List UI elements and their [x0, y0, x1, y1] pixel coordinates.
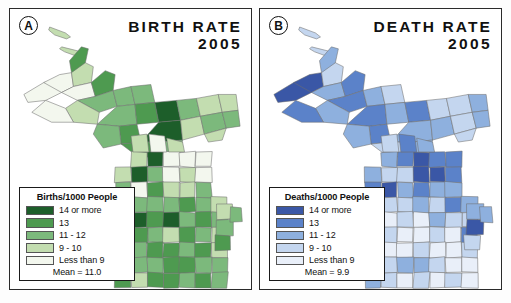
panel-title-b-line1: DEATH RATE: [373, 18, 492, 35]
legend-label: 13: [59, 218, 69, 228]
county-shape: [343, 124, 371, 148]
county-shape: [399, 134, 417, 152]
legend-swatch: [276, 256, 304, 266]
panel-title-a: BIRTH RATE 2005: [128, 18, 242, 52]
county-shape: [446, 151, 463, 167]
county-shape: [130, 151, 147, 168]
legend-swatch: [276, 218, 304, 228]
legend-label: Less than 9: [59, 255, 104, 265]
county-shape: [397, 227, 413, 242]
county-shape: [114, 167, 132, 183]
county-shape: [195, 257, 212, 273]
isle-royale-shape: [299, 27, 321, 39]
county-shape: [195, 211, 212, 227]
county-shape: [146, 211, 163, 227]
county-shape: [179, 242, 196, 257]
county-shape: [147, 167, 164, 182]
legend-death-title: Deaths/1000 People: [276, 192, 378, 202]
county-shape: [147, 257, 163, 273]
county-shape: [195, 152, 212, 167]
county-shape: [429, 257, 446, 273]
county-shape: [397, 167, 415, 182]
panel-birth-rate: A BIRTH RATE 2005 Births/1000 People 14 …: [9, 8, 252, 290]
county-shape: [155, 100, 181, 122]
legend-swatch: [26, 206, 54, 216]
county-shape: [131, 134, 149, 152]
county-shape: [215, 235, 231, 251]
county-shape: [146, 196, 163, 213]
legend-swatch: [276, 206, 304, 216]
county-shape: [445, 213, 462, 229]
county-shape: [429, 213, 446, 227]
county-shape: [381, 167, 397, 182]
county-shape: [131, 166, 148, 182]
county-shape: [413, 227, 430, 243]
legend-label: 11 - 12: [309, 230, 336, 240]
legend-row: 13: [276, 217, 378, 229]
county-shape: [149, 134, 167, 152]
county-shape: [179, 257, 196, 273]
county-shape: [464, 235, 481, 250]
county-shape: [445, 197, 463, 213]
panel-title-a-line1: BIRTH RATE: [128, 18, 242, 35]
panel-tag-a: A: [19, 16, 38, 35]
county-shape: [414, 152, 430, 167]
county-shape: [230, 207, 242, 222]
county-shape: [413, 182, 430, 198]
county-shape: [32, 100, 74, 122]
county-shape: [211, 272, 228, 289]
county-shape: [413, 272, 430, 289]
county-shape: [430, 182, 446, 198]
county-shape: [414, 258, 430, 273]
county-shape: [429, 152, 447, 168]
legend-death: Deaths/1000 People 14 or more1311 - 129 …: [269, 187, 385, 282]
legend-birth: Births/1000 People 14 or more1311 - 129 …: [19, 187, 135, 282]
isle-royale-group: [299, 27, 332, 56]
legend-row: 14 or more: [26, 205, 128, 217]
panel-title-b: DEATH RATE 2005: [373, 18, 492, 52]
legend-row: 9 - 10: [276, 242, 378, 254]
county-shape: [381, 151, 398, 167]
county-shape: [163, 273, 180, 288]
county-shape: [397, 152, 414, 167]
county-shape: [445, 227, 461, 243]
figure-root: A BIRTH RATE 2005 Births/1000 People 14 …: [0, 0, 511, 303]
legend-label: 13: [309, 218, 319, 228]
panel-title-b-year: 2005: [373, 35, 492, 52]
legend-row: 14 or more: [276, 205, 378, 217]
legend-label: 14 or more: [59, 205, 102, 215]
county-shape: [163, 257, 180, 273]
county-shape: [381, 134, 399, 152]
legend-birth-rows: 14 or more1311 - 129 - 10Less than 9: [26, 205, 128, 267]
county-shape: [180, 182, 195, 198]
county-shape: [179, 211, 195, 227]
legend-label: 9 - 10: [309, 243, 331, 253]
county-shape: [413, 197, 429, 213]
legend-swatch: [276, 231, 304, 241]
county-shape: [445, 273, 463, 287]
county-shape: [446, 242, 462, 258]
county-shape: [179, 227, 195, 243]
legend-row: 11 - 12: [26, 230, 128, 242]
legend-row: 11 - 12: [276, 230, 378, 242]
legend-label: 11 - 12: [59, 230, 86, 240]
legend-label: 9 - 10: [59, 243, 81, 253]
isle-royale-group: [49, 27, 82, 56]
legend-swatch: [26, 231, 54, 241]
county-shape: [431, 116, 455, 140]
county-shape: [179, 272, 195, 287]
legend-label: 14 or more: [309, 205, 352, 215]
county-shape: [196, 182, 212, 198]
county-shape: [164, 197, 180, 213]
county-shape: [413, 212, 429, 228]
county-shape: [147, 182, 163, 198]
legend-row: 9 - 10: [26, 242, 128, 254]
legend-swatch: [276, 243, 304, 253]
county-shape: [364, 167, 382, 183]
legend-death-mean: Mean = 9.9: [276, 267, 378, 277]
county-shape: [461, 273, 478, 289]
county-shape: [163, 151, 180, 166]
county-shape: [147, 242, 163, 259]
legend-swatch: [26, 243, 54, 253]
county-shape: [163, 227, 181, 243]
